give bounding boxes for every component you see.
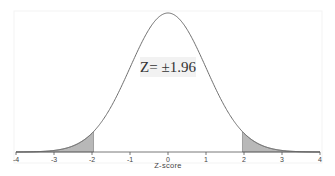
x-tick-label: -3 — [51, 156, 57, 163]
x-tick-label: 1 — [204, 156, 208, 163]
z-critical-annotation: Z= ±1.96 — [140, 59, 196, 75]
x-tick-label: 4 — [318, 156, 322, 163]
density-curve — [16, 13, 320, 152]
x-tick-label: -2 — [89, 156, 95, 163]
normal-distribution-chart: -4-3-2-101234 Z-score Z= ±1.96 — [0, 0, 335, 176]
x-tick-label: 3 — [280, 156, 284, 163]
plot-frame — [14, 11, 322, 163]
x-tick-label: -1 — [127, 156, 133, 163]
x-tick-label: -4 — [13, 156, 19, 163]
x-axis-label: Z-score — [154, 161, 182, 170]
x-tick-label: 2 — [242, 156, 246, 163]
